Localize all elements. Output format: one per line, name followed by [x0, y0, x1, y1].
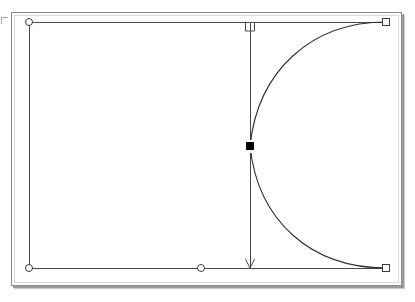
center-anchor-square[interactable] [246, 142, 254, 150]
handle-top-right[interactable] [383, 19, 390, 26]
lower-arc-curve[interactable] [250, 146, 386, 268]
handle-bottom-right[interactable] [383, 265, 390, 272]
upper-arc-curve[interactable] [250, 22, 386, 146]
editor-canvas-root: Vector Path Editor Canvas Untitled Drawi… [0, 0, 415, 302]
center-anchor-point[interactable] [244, 140, 257, 153]
path-curves[interactable] [250, 22, 386, 268]
handle-bottom-left[interactable] [26, 265, 33, 272]
vector-artwork-overlay [0, 0, 415, 302]
handle-top-left[interactable] [26, 19, 33, 26]
selection-bounding-box[interactable] [29, 22, 386, 268]
selection-handles[interactable] [26, 19, 390, 272]
handle-bottom-center[interactable] [198, 265, 205, 272]
